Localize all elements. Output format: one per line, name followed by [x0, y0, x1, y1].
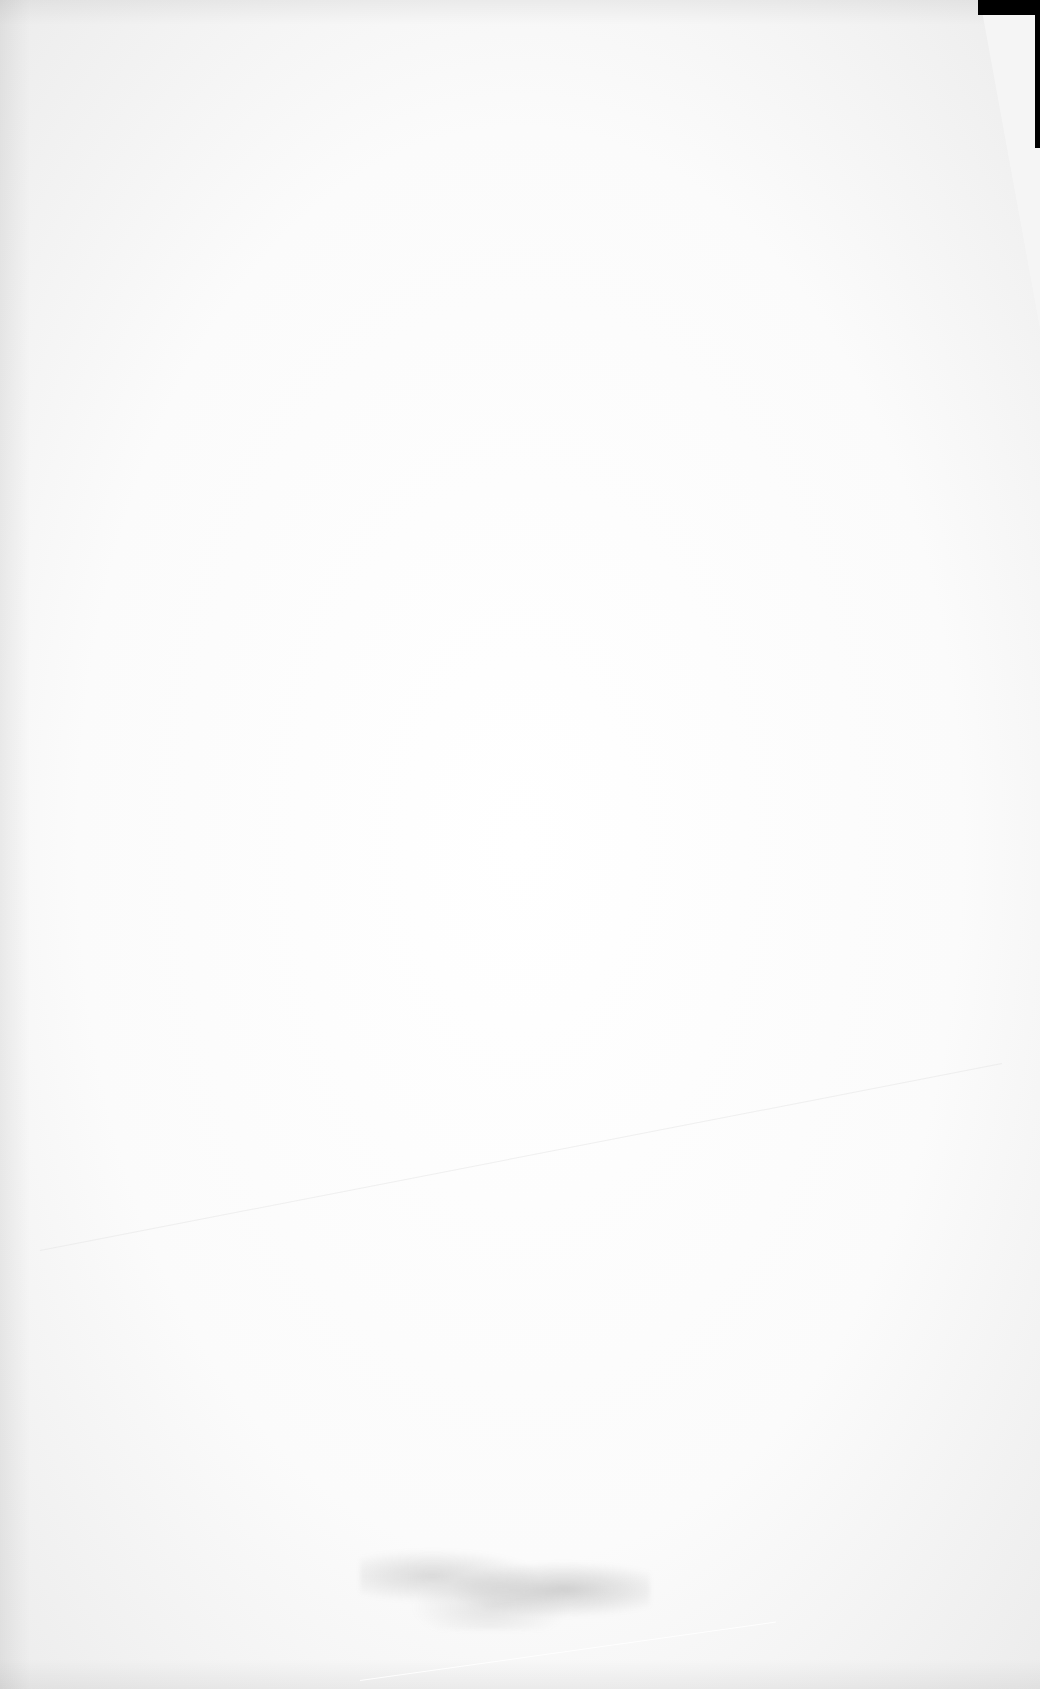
scanner-bed-corner [978, 0, 1040, 148]
scan-scratch-line [40, 1063, 1002, 1251]
scanned-document [0, 0, 1040, 1689]
scanner-edge-side [1035, 0, 1040, 148]
scanner-edge-top [978, 0, 1040, 15]
ink-smudge [360, 1540, 650, 1630]
scan-scratch-line [360, 1622, 776, 1681]
paper-page [0, 0, 1040, 1689]
